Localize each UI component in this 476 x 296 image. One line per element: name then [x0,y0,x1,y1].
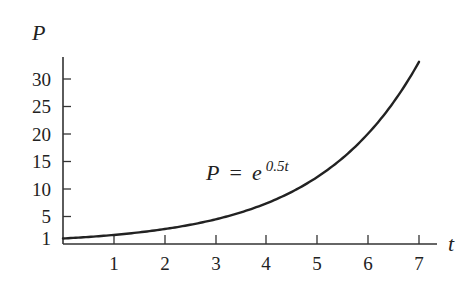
equation-exponent: 0.5t [266,158,290,174]
x-tick-7: 7 [414,253,424,274]
y-tick-20: 20 [32,124,51,145]
equation-base: e [252,160,262,185]
y-tick-1: 1 [42,228,52,249]
equation-equals: = [229,160,241,185]
y-tick-15: 15 [32,151,51,172]
x-tick-4: 4 [261,253,271,274]
x-tick-1: 1 [109,253,119,274]
y-tick-25: 25 [32,96,51,117]
x-axis-label: t [448,231,455,256]
x-tick-6: 6 [363,253,373,274]
y-axis-label: P [31,20,45,45]
y-ticks [63,79,71,217]
x-ticks [114,235,419,244]
y-tick-labels: 30 25 20 15 10 5 1 [32,69,51,249]
x-tick-5: 5 [312,253,322,274]
x-tick-2: 2 [160,253,170,274]
equation-lhs: P [205,160,219,185]
y-tick-30: 30 [32,69,51,90]
x-tick-labels: 1 2 3 4 5 6 7 [109,253,424,274]
x-tick-3: 3 [211,253,221,274]
y-tick-5: 5 [42,206,52,227]
equation-label: P = e 0.5t [205,158,289,185]
exponential-curve [63,62,419,239]
exponential-chart: P t 30 25 20 15 10 5 1 1 2 3 4 5 6 7 [0,0,476,296]
y-tick-10: 10 [32,179,51,200]
